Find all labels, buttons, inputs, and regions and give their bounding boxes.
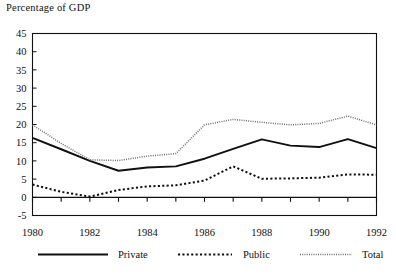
legend-label-public: Public (243, 249, 270, 260)
chart-container: Percentage of GDP -5051015202530354045 1… (0, 0, 396, 275)
x-tick-label: 1990 (309, 227, 330, 238)
legend-label-private: Private (118, 249, 148, 260)
y-tick-label: 45 (16, 28, 27, 39)
y-tick-label: 5 (21, 174, 26, 185)
x-tick-label: 1986 (194, 227, 215, 238)
x-tick-label: 1984 (137, 227, 159, 238)
legend-label-total: Total (362, 249, 384, 260)
data-series-group (33, 116, 377, 196)
y-tick-label: 40 (16, 46, 27, 57)
y-tick-label: 10 (16, 156, 27, 167)
series-line-total (33, 116, 377, 160)
series-line-public (33, 166, 377, 196)
y-tick-label: 15 (16, 137, 27, 148)
line-chart-plot: -5051015202530354045 1980198219841986198… (0, 0, 396, 275)
y-tick-label: -5 (18, 210, 27, 221)
y-tick-label: 35 (16, 65, 27, 76)
chart-legend: PrivatePublicTotal (38, 249, 384, 260)
series-line-private (33, 138, 377, 171)
x-tick-label: 1992 (366, 227, 387, 238)
y-tick-label: 25 (16, 101, 27, 112)
x-tick-label: 1982 (79, 227, 100, 238)
x-tick-label: 1988 (251, 227, 272, 238)
x-axis-ticks: 1980198219841986198819901992 (22, 197, 387, 237)
y-tick-label: 30 (16, 83, 27, 94)
y-tick-label: 0 (21, 192, 26, 203)
x-tick-label: 1980 (22, 227, 43, 238)
y-tick-label: 20 (16, 119, 27, 130)
